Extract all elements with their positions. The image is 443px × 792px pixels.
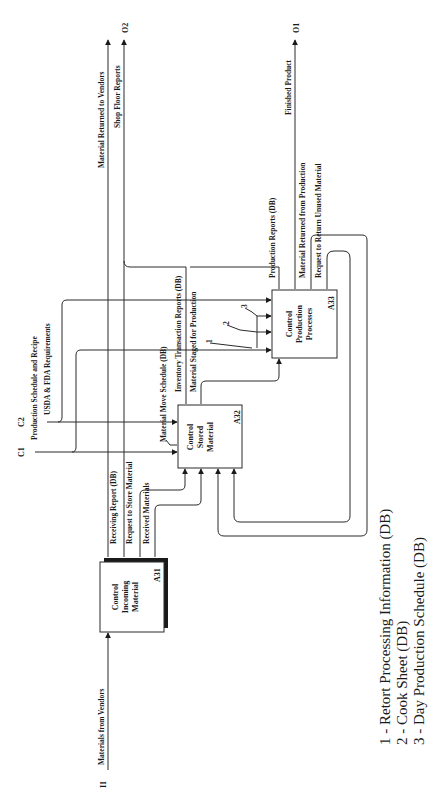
box-a32-line2: Stored	[196, 425, 205, 448]
label-materials-from-vendors: Materials from Vendors	[97, 688, 106, 765]
label-received-materials: Received Materials	[142, 482, 151, 544]
label-usda-fda: USDA & FDA Requirements	[43, 323, 52, 415]
label-shop-floor-reports: Shop Floor Reports	[113, 65, 122, 128]
label-material-staged: Material Staged for Production	[189, 291, 198, 392]
label-material-returned-from-production: Material Returned from Production	[298, 162, 307, 278]
box-a31-label: Control Incoming Material	[111, 581, 140, 613]
tag-o2: O2	[121, 23, 130, 33]
arrow-material-returned-from-production	[218, 235, 367, 536]
label-mechanism-3: 3	[240, 304, 249, 308]
tag-o1: O1	[292, 23, 301, 33]
box-a32-line3: Material	[206, 421, 215, 452]
box-a31-line1: Control	[111, 583, 120, 610]
legend-item-3: 3 - Day Production Schedule (DB)	[411, 537, 428, 745]
label-mechanism-2: 2	[222, 321, 231, 325]
arrow-production-reports	[190, 267, 279, 289]
box-a32-id: A32	[233, 410, 242, 424]
label-finished-product: Finished Product	[284, 59, 293, 115]
box-a31-line2: Incoming	[121, 581, 130, 613]
label-mechanism-1: 1	[205, 339, 214, 343]
box-a33-line3: Processes	[305, 308, 314, 340]
legend-item-2: 2 - Cook Sheet (DB)	[394, 621, 411, 745]
tag-c2: C2	[17, 417, 26, 427]
idef0-diagram: Control Incoming Material A31 Control St…	[0, 0, 443, 792]
label-receiving-report: Receiving Report (DB)	[109, 471, 118, 544]
legend-item-1: 1 - Retort Processing Information (DB)	[377, 509, 394, 745]
arrow-request-to-store	[155, 469, 201, 557]
box-a33-line1: Control	[285, 310, 294, 337]
legend: 1 - Retort Processing Information (DB) 2…	[377, 509, 428, 745]
mech-1-lead	[210, 343, 252, 348]
label-production-reports: Production Reports (DB)	[268, 197, 277, 278]
box-a31-line3: Material	[131, 581, 140, 612]
mech-3-lead	[245, 308, 257, 316]
box-a33-id: A33	[327, 296, 336, 310]
tag-i1: I1	[99, 781, 108, 788]
mech-2-lead	[227, 325, 257, 332]
label-request-return-unused: Request to Return Unused Material	[314, 163, 323, 278]
label-request-to-store: Request to Store Material	[125, 461, 134, 544]
label-production-schedule-recipe: Production Schedule and Recipe	[30, 336, 39, 440]
label-inventory-transaction-reports: Inventory Transaction Reports (DB)	[174, 275, 183, 392]
box-a31-id: A31	[153, 568, 162, 582]
box-a32-line1: Control	[186, 423, 195, 450]
label-material-move-schedule: Material Move Schedule (DB)	[159, 346, 168, 442]
label-material-returned-to-vendors: Material Returned to Vendors	[97, 71, 106, 168]
box-a32-label: Control Stored Material	[186, 421, 215, 452]
box-a33-line2: Production	[295, 304, 304, 343]
tag-c1: C1	[17, 447, 26, 457]
arrow-material-staged	[201, 359, 279, 404]
